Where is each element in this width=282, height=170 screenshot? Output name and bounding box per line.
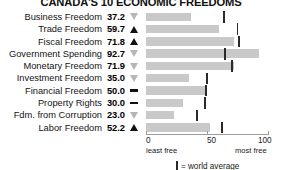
- bar-track: [146, 109, 268, 121]
- triangle-up-icon: [128, 122, 140, 134]
- legend-label: = world average: [181, 162, 239, 170]
- x-axis-tick: [207, 131, 208, 135]
- value-bar: [146, 99, 183, 107]
- value-bar: [146, 62, 234, 70]
- dash-flat-icon: [128, 85, 140, 97]
- x-axis-endpoint-caption: least free: [146, 146, 177, 155]
- world-average-marker: [237, 23, 239, 35]
- x-axis-tick-label: 50: [207, 136, 216, 145]
- triangle-down-hollow-icon: [128, 60, 140, 72]
- economic-freedoms-chart: CANADA'S 10 ECONOMIC FREEDOMS Business F…: [0, 0, 282, 170]
- world-average-marker: [238, 36, 240, 48]
- x-axis-tick-label: 100: [258, 136, 272, 145]
- row-category-label: Labor Freedom: [0, 122, 102, 134]
- triangle-up-icon: [128, 36, 140, 48]
- row-value-label: 37.2: [103, 11, 125, 23]
- row-category-label: Government Spending: [0, 48, 102, 60]
- world-average-marker: [196, 110, 198, 122]
- x-axis-tick-label: 0: [146, 136, 151, 145]
- bar-track: [146, 11, 268, 23]
- world-average-marker: [205, 85, 207, 97]
- bar-track: [146, 97, 268, 109]
- triangle-down-hollow-icon: [128, 11, 140, 23]
- chart-plot-area: [146, 11, 268, 134]
- row-category-label: Financial Freedom: [0, 85, 102, 97]
- row-value-label: 30.0: [103, 97, 125, 109]
- row-category-label: Investment Freedom: [0, 72, 102, 84]
- triangle-down-hollow-icon: [128, 72, 140, 84]
- row-category-label: Fiscal Freedom: [0, 36, 102, 48]
- dash-flat-icon: [128, 97, 140, 109]
- value-bar: [146, 37, 234, 45]
- chart-title: CANADA'S 10 ECONOMIC FREEDOMS: [3, 0, 279, 8]
- value-bar: [146, 74, 189, 82]
- x-axis-tick: [146, 131, 147, 135]
- bar-track: [146, 85, 268, 97]
- row-value-label: 50.0: [103, 85, 125, 97]
- bar-track: [146, 48, 268, 60]
- bar-track: [146, 23, 268, 35]
- value-bar: [146, 111, 174, 119]
- row-category-label: Fdm. from Corruption: [0, 109, 102, 121]
- x-axis-endpoint-caption: most free: [235, 146, 267, 155]
- row-value-label: 92.7: [103, 48, 125, 60]
- x-axis-tick: [268, 131, 269, 135]
- triangle-down-hollow-icon: [128, 48, 140, 60]
- row-value-label: 35.0: [103, 72, 125, 84]
- chart-legend: = world average: [176, 155, 239, 167]
- row-value-label: 71.8: [103, 36, 125, 48]
- row-value-label: 71.9: [103, 60, 125, 72]
- row-category-label: Property Rights: [0, 97, 102, 109]
- bar-track: [146, 73, 268, 85]
- world-average-marker: [204, 97, 206, 109]
- value-bar: [146, 49, 259, 57]
- value-bar: [146, 86, 207, 94]
- value-bar: [146, 123, 210, 131]
- row-value-label: 52.2: [103, 122, 125, 134]
- row-value-label: 59.7: [103, 23, 125, 35]
- world-average-marker: [223, 11, 225, 23]
- world-average-marker-icon: [176, 161, 178, 170]
- value-bar: [146, 25, 219, 33]
- row-category-label: Trade Freedom: [0, 23, 102, 35]
- value-bar: [146, 13, 191, 21]
- bar-track: [146, 36, 268, 48]
- world-average-marker: [224, 48, 226, 60]
- row-value-label: 23.0: [103, 109, 125, 121]
- row-category-label: Business Freedom: [0, 11, 102, 23]
- world-average-marker: [231, 60, 233, 72]
- triangle-down-hollow-icon: [128, 109, 140, 121]
- triangle-up-icon: [128, 23, 140, 35]
- world-average-marker: [221, 122, 223, 134]
- bar-track: [146, 60, 268, 72]
- world-average-marker: [206, 73, 208, 85]
- row-category-label: Monetary Freedom: [0, 60, 102, 72]
